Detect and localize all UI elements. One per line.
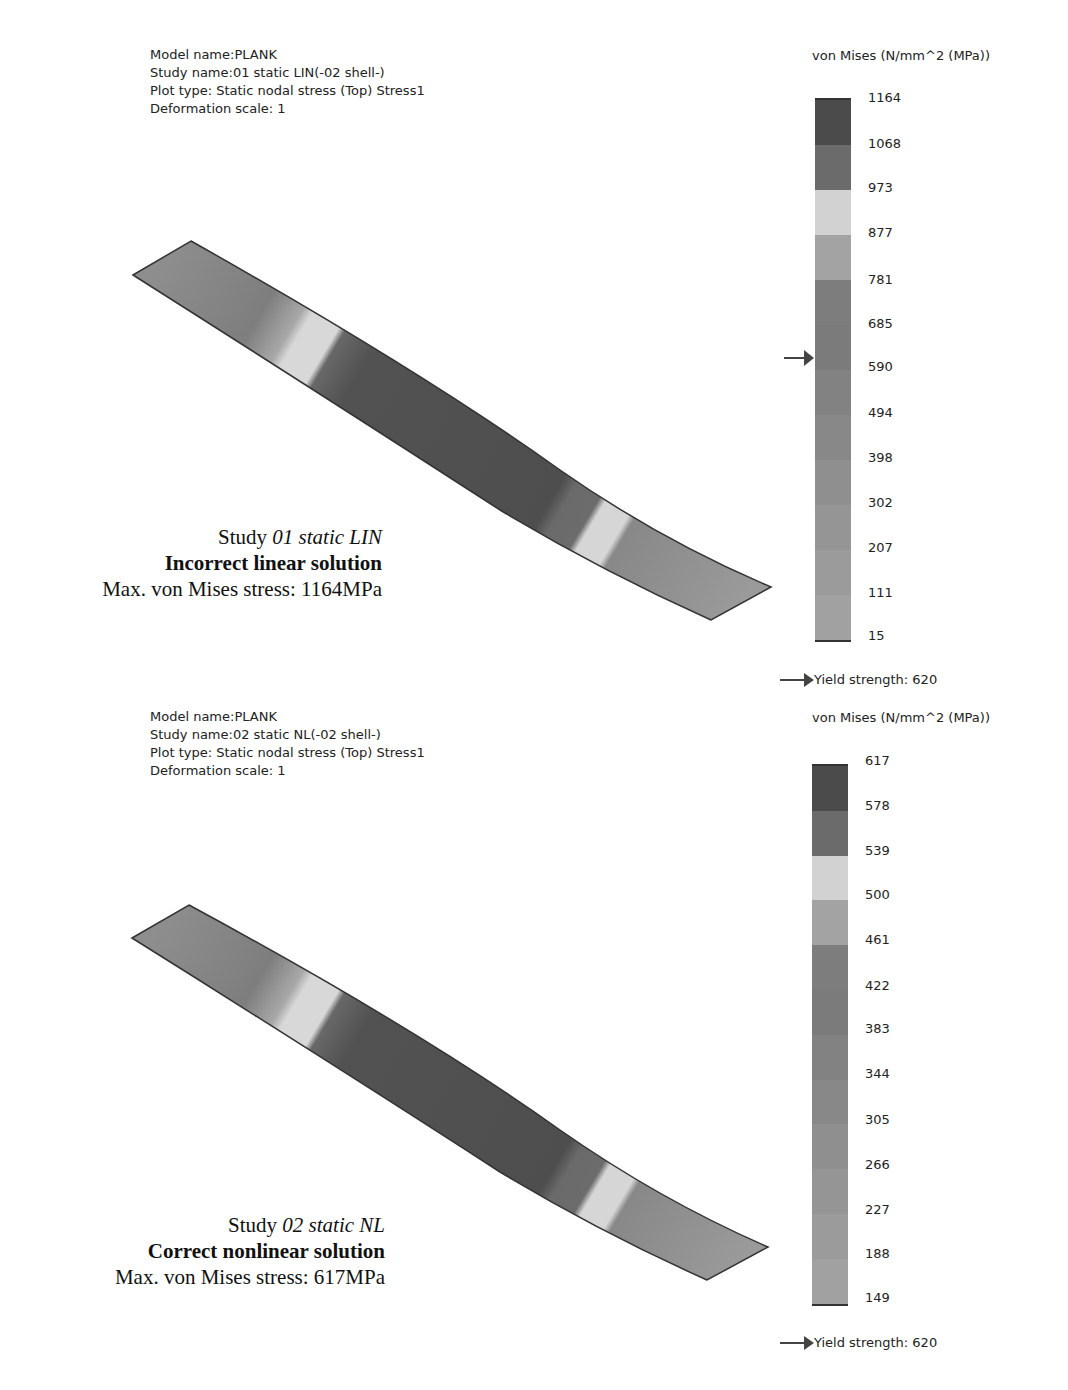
plank-stress-plot-2 xyxy=(0,0,1068,1390)
